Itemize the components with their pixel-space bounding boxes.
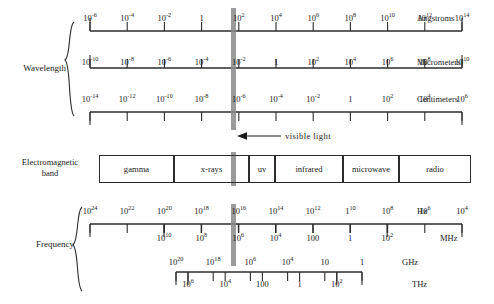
- tick-label-mhz-3: 104: [270, 234, 282, 243]
- tick-label-micrometers-2: 10-6: [158, 58, 172, 67]
- axis-unit-centimeters: Centimeters: [417, 95, 458, 104]
- axis-unit-hz: Hz: [417, 207, 427, 216]
- tick-label-angstroms-6: 106: [307, 14, 319, 23]
- tick-label-angstroms-3: 1: [199, 14, 203, 23]
- tick-label-hz-3: 1018: [194, 207, 209, 216]
- tick-label-hz-10: 104: [456, 207, 468, 216]
- tick-label-micrometers-1: 10-8: [120, 58, 134, 67]
- wavelength-brace: [65, 22, 74, 116]
- axis-centimeters: [90, 112, 462, 125]
- frequency-group-label: Frequency: [14, 240, 74, 249]
- axis-unit-mhz: MHz: [440, 234, 457, 243]
- axis-unit-ghz: GHz: [402, 258, 418, 267]
- band-cell-infrared[interactable]: infrared: [275, 155, 343, 183]
- tick-label-ghz-2: 106: [245, 258, 257, 267]
- band-cell-radio[interactable]: radio: [399, 155, 471, 183]
- tick-label-centimeters-2: 10-10: [156, 95, 173, 104]
- tick-label-micrometers-5: 1: [274, 58, 278, 67]
- tick-label-hz-0: 1024: [83, 207, 98, 216]
- tick-label-centimeters-4: 10-6: [232, 95, 246, 104]
- tick-label-thz-3: 1: [297, 280, 301, 289]
- tick-label-ghz-4: 10: [321, 258, 330, 267]
- tick-label-ghz-1: 1018: [206, 258, 221, 267]
- band-cell-microwave[interactable]: microwave: [343, 155, 399, 183]
- tick-label-angstroms-8: 1010: [380, 14, 395, 23]
- tick-label-angstroms-2: 10-2: [158, 14, 172, 23]
- tick-label-angstroms-5: 104: [270, 14, 282, 23]
- tick-label-ghz-3: 104: [282, 258, 294, 267]
- tick-label-centimeters-7: 1: [348, 95, 352, 104]
- tick-label-centimeters-6: 10-2: [306, 95, 320, 104]
- electromagnetic-spectrum-figure: Wavelength Frequency Electromagnetic ban…: [0, 0, 494, 304]
- tick-label-centimeters-5: 10-4: [269, 95, 283, 104]
- tick-label-mhz-6: 102: [381, 234, 393, 243]
- band-cell-uv[interactable]: uv: [249, 155, 275, 183]
- electromagnetic-band-label: Electromagnetic band: [6, 157, 94, 178]
- tick-label-angstroms-1: 10-4: [120, 14, 134, 23]
- wavelength-group-label: Wavelength: [8, 64, 66, 73]
- band-cell-x-rays[interactable]: x-rays: [174, 155, 249, 183]
- tick-label-mhz-5: 1: [348, 234, 352, 243]
- tick-label-centimeters-1: 10-12: [119, 95, 136, 104]
- tick-label-micrometers-3: 10-4: [195, 58, 209, 67]
- tick-label-ghz-0: 1020: [169, 258, 184, 267]
- tick-label-angstroms-7: 108: [345, 14, 357, 23]
- tick-label-angstroms-4: 102: [233, 14, 245, 23]
- tick-label-hz-6: 1012: [306, 207, 321, 216]
- tick-label-thz-4: 102: [331, 280, 343, 289]
- tick-label-hz-2: 1020: [157, 207, 172, 216]
- band-cell-gamma[interactable]: gamma: [99, 155, 174, 183]
- tick-label-mhz-4: 100: [306, 234, 319, 243]
- visible-light-band-upper: [231, 8, 236, 130]
- tick-label-centimeters-3: 10-8: [195, 95, 209, 104]
- tick-label-thz-1: 104: [219, 280, 231, 289]
- tick-label-angstroms-0: 10-6: [83, 14, 97, 23]
- tick-label-micrometers-8: 106: [382, 58, 394, 67]
- tick-label-micrometers-0: 10-10: [82, 58, 99, 67]
- frequency-brace: [73, 207, 82, 291]
- tick-label-angstroms-10: 1014: [455, 14, 470, 23]
- band-label-line-1: Electromagnetic: [6, 157, 94, 168]
- tick-label-hz-7: 110: [345, 207, 355, 216]
- tick-label-ghz-5: 1: [360, 258, 364, 267]
- tick-label-hz-8: 108: [382, 207, 394, 216]
- tick-label-mhz-0: 1010: [157, 234, 172, 243]
- visible-light-arrow: [237, 132, 281, 140]
- visible-light-annotation: visible light: [285, 131, 331, 141]
- tick-label-centimeters-0: 10-14: [82, 95, 99, 104]
- tick-label-micrometers-6: 102: [307, 58, 319, 67]
- axis-unit-micrometers: Micrometers: [417, 58, 460, 67]
- axis-unit-angstroms: Angstroms: [417, 14, 454, 23]
- tick-label-hz-5: 1014: [269, 207, 284, 216]
- tick-label-micrometers-4: 10-2: [232, 58, 246, 67]
- axis-unit-thz: THz: [412, 280, 427, 289]
- tick-label-thz-2: 100: [256, 280, 269, 289]
- tick-label-mhz-1: 108: [195, 234, 207, 243]
- tick-label-thz-0: 106: [182, 280, 194, 289]
- tick-label-mhz-2: 106: [233, 234, 245, 243]
- tick-label-hz-4: 1016: [231, 207, 246, 216]
- tick-label-hz-1: 1022: [120, 207, 135, 216]
- band-label-line-2: band: [6, 168, 94, 179]
- tick-label-centimeters-8: 102: [382, 95, 394, 104]
- tick-label-micrometers-7: 104: [345, 58, 357, 67]
